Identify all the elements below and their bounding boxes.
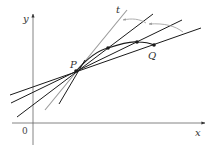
secant-line-4 [10, 28, 201, 95]
secant-line-2 [17, 14, 153, 117]
tangent-line [45, 10, 127, 110]
curve [76, 42, 154, 71]
point-intermediate-1 [106, 46, 110, 50]
origin-label: 0 [22, 126, 28, 136]
x-axis-label: x [195, 127, 201, 138]
tangent-label: t [116, 4, 121, 15]
point-q-label: Q [148, 50, 156, 61]
point-p-label: P [69, 59, 77, 70]
point-q [152, 43, 156, 47]
secant-line-3 [11, 20, 182, 103]
diagram-canvas: y x 0 P Q t [0, 0, 211, 149]
y-axis-label: y [22, 13, 29, 24]
point-intermediate-2 [135, 40, 139, 44]
